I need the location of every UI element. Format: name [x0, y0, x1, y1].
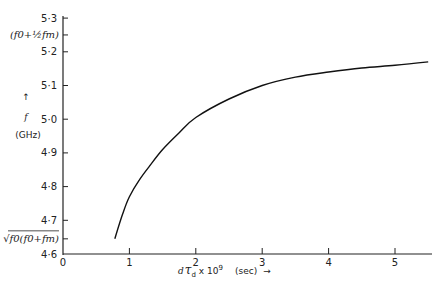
y-tick-label: 5·3	[41, 13, 57, 24]
x-label-d: d	[178, 266, 184, 276]
x-tick-label: 5	[392, 257, 398, 268]
y-tick-label: 4·7	[41, 215, 57, 226]
x-label-arrow: →	[263, 266, 271, 276]
data-curve	[115, 62, 428, 239]
x-tick-label: 1	[126, 257, 132, 268]
y-tick-label: 4·6	[41, 249, 57, 260]
chart: 4·64·74·84·95·05·15·25·3 012345 (f0+½fm)…	[0, 0, 445, 292]
x-label-mult: x 10	[199, 266, 219, 276]
x-tick-label: 0	[60, 257, 66, 268]
x-label-sub: d	[191, 271, 195, 279]
y-tick-label: 5·2	[41, 46, 57, 57]
x-label-exp: 9	[219, 264, 223, 272]
x-tick-label: 4	[325, 257, 331, 268]
y-label-unit: (GHz)	[15, 130, 41, 140]
y-annotation-label: (f0+½fm)	[10, 29, 59, 40]
x-ticks: 012345	[60, 248, 398, 268]
y-label-arrow: ↑	[22, 92, 30, 102]
x-label-unit: (sec)	[235, 266, 257, 276]
y-tick-label: 5·0	[41, 114, 57, 125]
y-label-symbol: f	[23, 112, 29, 122]
y-tick-label: 4·9	[41, 147, 57, 158]
y-tick-label: 5·1	[41, 80, 57, 91]
y-annotation-label: √f0(f0+fm)	[3, 233, 59, 244]
y-ticks: 4·64·74·84·95·05·15·25·3	[41, 13, 68, 260]
y-tick-label: 4·8	[41, 181, 57, 192]
